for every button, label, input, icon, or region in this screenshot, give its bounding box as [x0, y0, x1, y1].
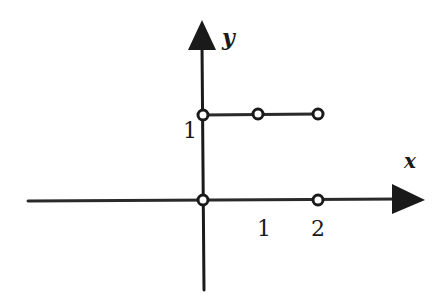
- function-graph: y x 1 1 2: [0, 0, 440, 298]
- open-point-1-1: [253, 109, 263, 119]
- y-tick-1: 1: [183, 118, 197, 143]
- y-axis-label: y: [221, 24, 237, 50]
- x-tick-2: 2: [311, 216, 325, 241]
- x-tick-1: 1: [257, 216, 271, 241]
- y-axis-arrow-icon: [188, 20, 216, 50]
- x-axis-arrow-icon: [392, 184, 425, 214]
- open-point-2-1: [313, 109, 323, 119]
- x-axis: [28, 199, 402, 201]
- y-axis: [202, 45, 204, 290]
- open-point-2-0: [313, 195, 323, 205]
- open-point-0-0: [198, 195, 208, 205]
- open-point-0-1: [198, 110, 208, 120]
- x-axis-label: x: [403, 149, 417, 173]
